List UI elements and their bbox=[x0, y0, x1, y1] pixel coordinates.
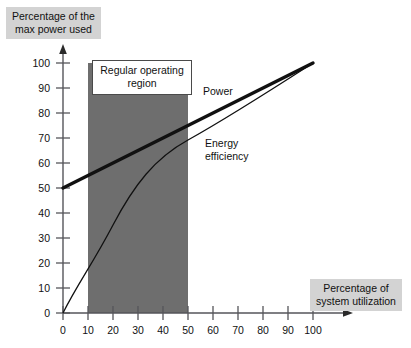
y-axis-title: Percentage of the max power used bbox=[6, 7, 101, 39]
y-tick-label-70: 70 bbox=[38, 132, 50, 144]
x-tick-label-80: 80 bbox=[257, 324, 269, 336]
x-tick-label-100: 100 bbox=[304, 324, 322, 336]
y-tick-label-30: 30 bbox=[38, 232, 50, 244]
region-label-line2: region bbox=[95, 77, 189, 90]
y-tick-label-0: 0 bbox=[44, 307, 50, 319]
y-tick-label-50: 50 bbox=[38, 182, 50, 194]
y-tick-label-100: 100 bbox=[32, 57, 50, 69]
y-tick-label-80: 80 bbox=[38, 107, 50, 119]
region-label-line1: Regular operating bbox=[95, 64, 189, 77]
x-tick-label-40: 40 bbox=[157, 324, 169, 336]
x-tick-label-60: 60 bbox=[207, 324, 219, 336]
x-tick-label-50: 50 bbox=[182, 324, 194, 336]
y-tick-label-60: 60 bbox=[38, 157, 50, 169]
regular-operating-region-label: Regular operating region bbox=[92, 60, 192, 95]
x-axis-title-line2: system utilization bbox=[316, 295, 396, 308]
y-axis-arrow-icon bbox=[59, 44, 67, 54]
energy-efficiency-series-label-line1: Energy bbox=[205, 137, 239, 149]
y-tick-label-90: 90 bbox=[38, 82, 50, 94]
x-axis-title-line1: Percentage of bbox=[316, 282, 396, 295]
y-axis-title-line1: Percentage of the bbox=[12, 10, 95, 23]
x-axis-title: Percentage of system utilization bbox=[310, 279, 402, 311]
x-tick-label-30: 30 bbox=[132, 324, 144, 336]
x-tick-label-10: 10 bbox=[82, 324, 94, 336]
y-tick-label-40: 40 bbox=[38, 207, 50, 219]
x-tick-label-70: 70 bbox=[232, 324, 244, 336]
regular-operating-region-band bbox=[88, 63, 188, 313]
power-series-label: Power bbox=[203, 85, 233, 97]
y-tick-label-10: 10 bbox=[38, 282, 50, 294]
x-tick-label-0: 0 bbox=[60, 324, 66, 336]
chart-figure: 0 10 20 30 40 50 60 70 80 90 100 0 10 20… bbox=[0, 0, 411, 348]
x-tick-label-90: 90 bbox=[282, 324, 294, 336]
x-tick-label-20: 20 bbox=[107, 324, 119, 336]
y-tick-label-20: 20 bbox=[38, 257, 50, 269]
energy-efficiency-series-label-line2: efficiency bbox=[205, 150, 249, 162]
y-axis-title-line2: max power used bbox=[12, 23, 95, 36]
